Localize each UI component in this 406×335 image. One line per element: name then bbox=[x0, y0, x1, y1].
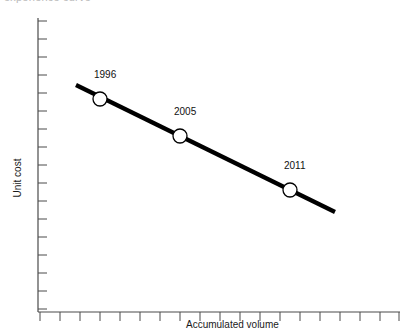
data-point-marker-2011[interactable] bbox=[283, 183, 297, 197]
y-axis-title: Unit cost bbox=[10, 148, 24, 208]
data-point-marker-2005[interactable] bbox=[173, 129, 187, 143]
y-axis-ticks bbox=[38, 21, 47, 309]
x-axis-title: Accumulated volume bbox=[186, 319, 279, 330]
chart-screenshot: experience curve bbox=[0, 0, 406, 335]
data-point-label-2005: 2005 bbox=[174, 106, 196, 117]
experience-curve-plot bbox=[0, 0, 406, 335]
y-axis-group bbox=[38, 18, 47, 312]
data-point-label-1996: 1996 bbox=[94, 69, 116, 80]
y-axis-title-label: Unit cost bbox=[12, 159, 23, 198]
data-point-marker-1996[interactable] bbox=[93, 92, 107, 106]
data-point-label-2011: 2011 bbox=[284, 160, 306, 171]
